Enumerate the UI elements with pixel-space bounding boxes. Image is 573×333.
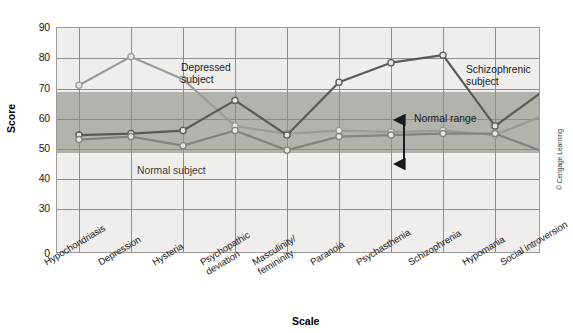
annotation-normal-range: Normal range [414, 113, 476, 125]
data-point [284, 132, 290, 138]
data-point [128, 54, 134, 60]
data-point [128, 134, 134, 140]
data-point [76, 82, 82, 88]
data-point [440, 130, 446, 136]
y-tick-70: 70 [18, 82, 50, 94]
series-layer [57, 28, 540, 253]
y-tick-90: 90 [18, 21, 50, 33]
plot-inner [57, 28, 539, 252]
copyright-notice: © Cengage Learning [556, 129, 563, 190]
y-tick-80: 80 [18, 51, 50, 63]
normal-range-arrow-icon [396, 112, 418, 172]
series-line-2 [79, 131, 540, 154]
y-tick-50: 50 [18, 142, 50, 154]
y-tick-60: 60 [18, 112, 50, 124]
data-point [284, 147, 290, 153]
data-point [76, 137, 82, 143]
data-point [180, 143, 186, 149]
data-point [336, 134, 342, 140]
data-point [232, 127, 238, 133]
annotation-depressed-line2: subject [181, 74, 214, 86]
data-point [388, 60, 394, 66]
y-axis-ticks: 90 80 70 60 50 40 30 0 [18, 0, 50, 333]
data-point [180, 127, 186, 133]
x-axis-title: Scale [292, 315, 319, 327]
y-axis-title: Score [5, 104, 17, 133]
data-point [440, 52, 446, 58]
data-point [388, 132, 394, 138]
annotation-normal-subject: Normal subject [137, 165, 206, 177]
plot-area [56, 27, 540, 253]
annotation-schizophrenic-line2: subject [466, 76, 499, 88]
annotation-schizophrenic-line1: Schizophrenic [466, 64, 531, 76]
annotation-depressed-line1: Depressed [181, 62, 231, 74]
data-point [232, 97, 238, 103]
y-tick-40: 40 [18, 172, 50, 184]
chart-figure: 90 80 70 60 50 40 30 0 Score Scale [0, 0, 573, 333]
y-tick-30: 30 [18, 202, 50, 214]
data-point [492, 130, 498, 136]
data-point [492, 123, 498, 129]
data-point [336, 79, 342, 85]
data-point [336, 127, 342, 133]
